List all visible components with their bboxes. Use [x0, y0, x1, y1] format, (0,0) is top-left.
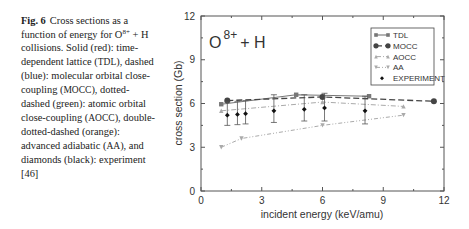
triangle-down-marker	[239, 136, 243, 140]
square-marker	[386, 33, 390, 37]
square-marker	[219, 102, 223, 106]
y-tick-label: 6	[189, 98, 195, 109]
y-axis-label: cross section (Gb)	[172, 60, 184, 145]
series-line	[221, 102, 403, 111]
reaction-annotation: O8++ H	[209, 28, 265, 51]
x-tick-label: 3	[259, 195, 265, 206]
x-axis-label: incident energy (keV/amu)	[261, 208, 384, 220]
series-aocc	[219, 100, 406, 113]
x-tick-label: 0	[198, 195, 204, 206]
data-series	[219, 93, 437, 150]
square-marker	[374, 33, 378, 37]
diamond-marker	[302, 107, 307, 112]
diamond-marker	[322, 105, 327, 110]
legend-label-aocc: AOCC	[393, 53, 416, 62]
x-tick-label: 12	[438, 195, 450, 206]
square-marker	[294, 93, 298, 97]
diamond-marker	[243, 111, 248, 116]
circle-marker	[431, 98, 437, 104]
y-tick-label: 12	[184, 11, 196, 22]
x-tick-label: 6	[320, 195, 326, 206]
x-tick-label: 9	[380, 195, 386, 206]
circle-marker	[373, 43, 378, 48]
triangle-down-marker	[219, 145, 223, 149]
triangle-down-marker	[401, 113, 405, 117]
legend-label-tdl: TDL	[393, 31, 409, 40]
y-tick-label: 3	[189, 142, 195, 153]
legend: TDLMOCCAOCCAAEXPERIMENT	[371, 28, 445, 85]
diamond-marker	[272, 108, 277, 113]
y-tick-label: 0	[189, 186, 195, 197]
series-line	[221, 115, 403, 147]
legend-label-experiment: EXPERIMENT	[393, 74, 445, 83]
series-aa	[219, 113, 406, 149]
legend-label-mocc: MOCC	[393, 42, 418, 51]
diamond-marker	[363, 108, 368, 113]
y-tick-label: 9	[189, 54, 195, 65]
diamond-marker	[225, 113, 230, 118]
legend-label-aa: AA	[393, 63, 404, 72]
cross-section-chart: 036912036912 TDLMOCCAOCCAAEXPERIMENT O8+…	[0, 0, 469, 229]
series-line	[227, 97, 434, 101]
diamond-marker	[235, 112, 240, 117]
circle-marker	[385, 43, 390, 48]
